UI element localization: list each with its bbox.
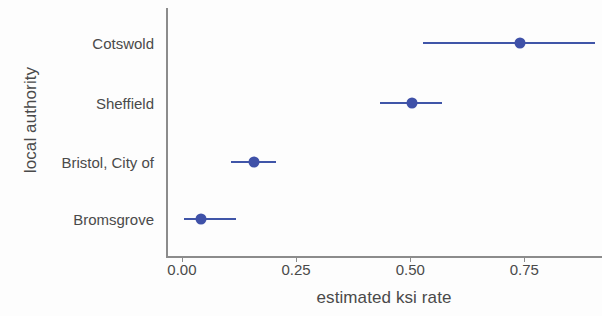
x-axis-tick-mark	[524, 258, 525, 262]
x-axis-tick-label: 0.25	[256, 261, 336, 278]
confidence-interval-line	[184, 218, 237, 220]
point-marker	[407, 98, 418, 109]
point-marker	[248, 157, 259, 168]
x-axis-tick-label: 0.50	[370, 261, 450, 278]
x-axis-tick-mark	[296, 258, 297, 262]
y-axis-tick-label: Bromsgrove	[0, 211, 160, 228]
point-marker	[196, 214, 207, 225]
y-axis-tick-label: Sheffield	[0, 95, 160, 112]
x-axis-tick-label: 0.75	[484, 261, 564, 278]
y-axis-tick-label: Cotswold	[0, 35, 160, 52]
y-axis-tick-label: Bristol, City of	[0, 154, 160, 171]
x-axis-tick-label: 0.00	[142, 261, 222, 278]
plot-area	[166, 8, 602, 258]
x-axis-tick-mark	[410, 258, 411, 262]
x-axis-tick-mark	[182, 258, 183, 262]
point-marker	[515, 38, 526, 49]
confidence-interval-line	[423, 42, 595, 44]
x-axis-title: estimated ksi rate	[166, 288, 602, 308]
dot-whisker-chart: local authority CotswoldSheffieldBristol…	[0, 0, 602, 316]
